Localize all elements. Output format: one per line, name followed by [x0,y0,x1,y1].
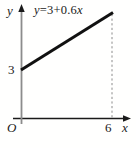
y-axis-arrowhead-icon [18,4,24,12]
equation-plus: + [53,3,60,17]
equation-variable: x [77,3,83,17]
y-tick-label-3: 3 [8,63,15,76]
equation-slope: 0.6 [61,3,77,17]
x-tick-label-6: 6 [105,121,112,134]
x-axis [13,115,131,121]
equation-equals: = [40,3,47,17]
y-axis-label: y [7,4,13,17]
line-graph-figure: y O x 3 6 y=3+0.6x [0,0,136,148]
y-axis [18,4,24,124]
plot-canvas [0,0,136,148]
x-axis-label: x [122,121,128,134]
equation-label: y=3+0.6x [34,4,83,17]
origin-label: O [7,121,16,134]
plot-line-series-1 [21,13,113,71]
